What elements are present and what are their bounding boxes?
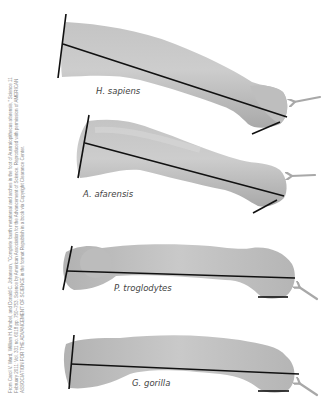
bones-illustration	[0, 0, 330, 407]
bone-p-troglodytes	[63, 244, 317, 299]
p-troglodytes-base-knob	[80, 248, 112, 278]
p-troglodytes-arrow-icon	[299, 287, 317, 299]
label-h-sapiens: H. sapiens	[96, 86, 140, 96]
a-afarensis-arrow-icon	[291, 175, 315, 176]
bone-h-sapiens	[58, 14, 320, 134]
g-gorilla-arrow-icon	[299, 383, 317, 395]
h-sapiens-bone-shape	[61, 22, 287, 128]
label-a-afarensis: A. afarensis	[83, 189, 133, 199]
metatarsal-figure: From Carol V. Ward, William H. Kimbel, a…	[0, 0, 330, 407]
h-sapiens-arrow-icon	[294, 97, 320, 102]
label-g-gorilla: G. gorilla	[132, 378, 170, 388]
bone-g-gorilla	[64, 335, 317, 395]
label-p-troglodytes: P. troglodytes	[114, 283, 172, 293]
g-gorilla-bone-shape	[64, 335, 295, 393]
